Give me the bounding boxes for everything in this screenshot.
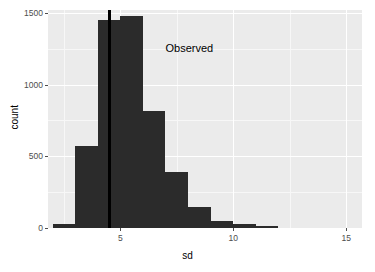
x-axis-tick-label: 5 <box>118 233 123 243</box>
y-axis-tick-label: 1000 <box>24 80 43 90</box>
x-axis-tick-label: 10 <box>229 233 238 243</box>
y-axis-title: count <box>9 106 20 130</box>
y-axis-tick-label: 500 <box>29 151 43 161</box>
histogram-bar <box>120 16 143 228</box>
histogram-bar <box>233 224 256 228</box>
y-axis-tick-label: 1500 <box>24 8 43 18</box>
histogram-bar <box>143 111 166 228</box>
observed-vline <box>108 10 111 228</box>
histogram-bar <box>256 226 279 228</box>
y-axis-tick-mark <box>45 156 48 157</box>
histogram-bar <box>211 221 234 228</box>
y-axis-tick-mark <box>45 85 48 86</box>
histogram-bar <box>53 224 76 228</box>
y-axis-tick-mark <box>45 13 48 14</box>
x-axis-title: sd <box>0 250 375 261</box>
histogram-bar <box>165 172 188 228</box>
y-axis-tick-mark <box>45 228 48 229</box>
observed-label: Observed <box>165 43 213 54</box>
x-axis-tick-label: 15 <box>341 233 350 243</box>
histogram-bar <box>75 146 98 228</box>
chart-root: Observed 050010001500 51015 sd count <box>0 0 375 272</box>
x-axis-tick-mark <box>120 228 121 231</box>
plot-panel: Observed <box>48 10 362 228</box>
histogram-bar <box>188 207 211 229</box>
x-axis-tick-mark <box>346 228 347 231</box>
x-axis-tick-mark <box>233 228 234 231</box>
y-axis-tick-label: 0 <box>38 223 43 233</box>
